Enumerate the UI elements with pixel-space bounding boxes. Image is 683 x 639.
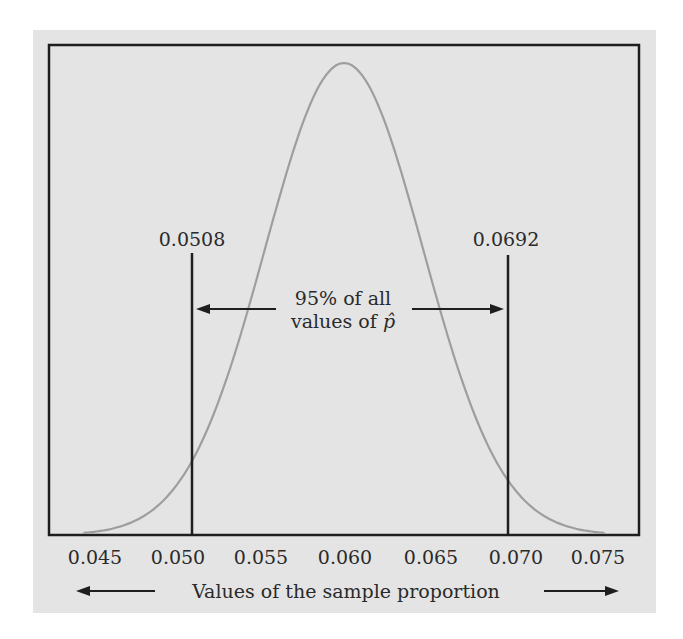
tick-label: 0.060 [318, 546, 372, 568]
left-arrowhead-icon [196, 304, 210, 314]
annotation-line-2: values of p̂ [290, 310, 395, 332]
axis-left-arrowhead-icon [76, 586, 90, 596]
annotation-line-1: 95% of all [295, 287, 391, 309]
left-marker-label: 0.0508 [159, 228, 225, 250]
tick-label: 0.070 [489, 546, 543, 568]
tick-label: 0.065 [404, 546, 458, 568]
chart-svg: 0.0508 0.0692 95% of all values of p̂ 0.… [0, 0, 683, 639]
tick-label: 0.055 [234, 546, 288, 568]
x-axis-title: Values of the sample proportion [191, 580, 500, 602]
tick-label: 0.050 [151, 546, 205, 568]
p-hat-symbol: p̂ [383, 310, 395, 332]
axis-right-arrowhead-icon [605, 586, 619, 596]
right-marker-label: 0.0692 [473, 228, 539, 250]
annotation-line-2-prefix: values of [290, 310, 383, 332]
tick-label: 0.075 [571, 546, 625, 568]
right-arrowhead-icon [490, 304, 504, 314]
x-tick-labels: 0.045 0.050 0.055 0.060 0.065 0.070 0.07… [68, 546, 625, 568]
tick-label: 0.045 [68, 546, 122, 568]
